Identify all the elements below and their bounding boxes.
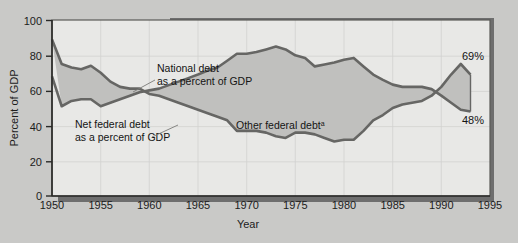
debt-area-chart: 0 20 40 60 80 100 Percent of GDP 1950 19… [0, 0, 518, 243]
x-tick-label-1975: 1975 [283, 199, 307, 211]
end-label-net-federal-debt: 48% [462, 114, 484, 126]
y-tick-label-100: 100 [24, 15, 42, 27]
annotation-national-debt-line2: as a percent of GDP [157, 75, 252, 87]
annotation-net-federal-debt-line2: as a percent of GDP [75, 131, 170, 143]
annotation-other-federal-debt: Other federal debta [236, 119, 325, 131]
x-tick-label-1950: 1950 [40, 199, 64, 211]
end-label-national-debt: 69% [462, 50, 484, 62]
x-tick-label-1965: 1965 [186, 199, 210, 211]
chart-figure: 0 20 40 60 80 100 Percent of GDP 1950 19… [0, 0, 518, 243]
annotation-net-federal-debt-line1: Net federal debt [75, 118, 150, 130]
x-tick-label-1955: 1955 [88, 199, 112, 211]
x-tick-label-1985: 1985 [380, 199, 404, 211]
x-tick-label-1960: 1960 [137, 199, 161, 211]
x-axis-title: Year [237, 218, 260, 230]
y-axis-title: Percent of GDP [8, 69, 20, 146]
x-tick-label-1990: 1990 [429, 199, 453, 211]
annotation-other-federal-debt-superscript: a [321, 120, 325, 127]
x-tick-label-1970: 1970 [234, 199, 258, 211]
annotation-other-federal-debt-text: Other federal debt [236, 119, 321, 131]
y-tick-label-20: 20 [30, 156, 42, 168]
y-tick-label-40: 40 [30, 121, 42, 133]
annotation-national-debt-line1: National debt [157, 62, 219, 74]
y-tick-label-80: 80 [30, 50, 42, 62]
y-tick-label-60: 60 [30, 85, 42, 97]
x-tick-label-1980: 1980 [332, 199, 356, 211]
x-tick-label-1995: 1995 [478, 199, 502, 211]
